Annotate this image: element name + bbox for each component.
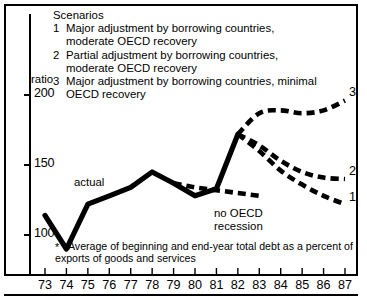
no-oecd-recession-annotation: no OECD recession bbox=[214, 207, 263, 232]
x-tick-label: 73 bbox=[38, 278, 52, 292]
x-tick-label: 84 bbox=[274, 278, 288, 292]
y-tick-label: 100 bbox=[34, 226, 54, 240]
x-tick-label: 76 bbox=[102, 278, 116, 292]
no-oecd-recession-line-1: no OECD bbox=[214, 207, 263, 220]
x-tick-label: 81 bbox=[209, 278, 223, 292]
x-tick-label: 85 bbox=[295, 278, 309, 292]
series-scenario-2-line bbox=[238, 134, 345, 179]
series-scenario-3-line bbox=[238, 101, 345, 135]
y-tick-label: 150 bbox=[34, 156, 54, 170]
x-axis-tick-labels: 737475767778798081828384858687 bbox=[0, 278, 367, 294]
x-tick-label: 82 bbox=[231, 278, 245, 292]
x-tick-label: 77 bbox=[124, 278, 138, 292]
x-axis-ticks bbox=[45, 268, 345, 274]
x-tick-label: 80 bbox=[188, 278, 202, 292]
footnote: * Average of beginning and end-year tota… bbox=[55, 240, 355, 264]
series-actual-line bbox=[45, 134, 238, 249]
y-tick-label: 200 bbox=[34, 86, 54, 100]
no-oecd-recession-line-2: recession bbox=[214, 220, 263, 233]
series-2-end-label: 2 bbox=[349, 164, 356, 178]
debt-ratio-scenarios-chart: Scenarios 1 Major adjustment by borrowin… bbox=[0, 0, 367, 300]
actual-annotation: actual bbox=[74, 176, 104, 189]
x-tick-label: 75 bbox=[81, 278, 95, 292]
x-tick-label: 79 bbox=[167, 278, 181, 292]
footnote-marker: * bbox=[55, 241, 59, 253]
x-tick-label: 83 bbox=[252, 278, 266, 292]
x-tick-label: 78 bbox=[145, 278, 159, 292]
series-1-end-label: 1 bbox=[349, 190, 356, 204]
x-tick-label: 87 bbox=[338, 278, 352, 292]
x-tick-label: 74 bbox=[59, 278, 73, 292]
x-tick-label: 86 bbox=[317, 278, 331, 292]
footnote-text: Average of beginning and end-year total … bbox=[55, 240, 353, 264]
series-3-end-label: 3 bbox=[349, 85, 356, 99]
